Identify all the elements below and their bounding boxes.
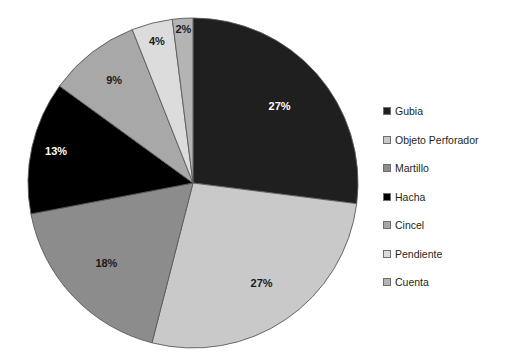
legend-item-cuenta[interactable]: Cuenta (383, 268, 505, 297)
legend-swatch-icon (383, 164, 391, 172)
pie-slice-label-hacha: 13% (45, 145, 67, 157)
legend-item-pendiente[interactable]: Pendiente (383, 240, 505, 269)
legend-swatch-icon (383, 136, 391, 144)
pie-slice-label-martillo: 18% (95, 257, 117, 269)
legend-swatch-icon (383, 107, 391, 115)
legend-item-label: Cincel (395, 220, 424, 231)
legend-item-label: Pendiente (395, 249, 442, 260)
pie-chart-svg: 27%27%18%13%9%4%2% (0, 0, 375, 360)
legend-swatch-icon (383, 250, 391, 258)
legend-item-label: Martillo (395, 163, 429, 174)
legend-item-martillo[interactable]: Martillo (383, 154, 505, 183)
legend-item-label: Hacha (395, 192, 425, 203)
pie-slice-label-cincel: 9% (106, 74, 122, 86)
pie-chart-plot-area: 27%27%18%13%9%4%2% (0, 0, 375, 360)
legend-item-gubia[interactable]: Gubia (383, 97, 505, 126)
legend-item-label: Gubia (395, 106, 423, 117)
pie-chart-figure: 27%27%18%13%9%4%2% GubiaObjeto Perforado… (0, 0, 505, 360)
pie-slices-group (28, 18, 358, 348)
pie-slice-label-cuenta: 2% (175, 23, 191, 35)
pie-slice-label-gubia: 27% (269, 100, 291, 112)
legend-swatch-icon (383, 221, 391, 229)
legend-item-hacha[interactable]: Hacha (383, 183, 505, 212)
legend-item-label: Cuenta (395, 277, 429, 288)
legend-item-label: Objeto Perforador (395, 135, 478, 146)
legend-item-objeto-perforador[interactable]: Objeto Perforador (383, 126, 505, 155)
legend-swatch-icon (383, 278, 391, 286)
pie-slice-label-objeto-perforador: 27% (251, 277, 273, 289)
pie-slice-label-pendiente: 4% (149, 35, 165, 47)
legend-swatch-icon (383, 193, 391, 201)
chart-legend: GubiaObjeto PerforadorMartilloHachaCince… (383, 97, 505, 297)
legend-item-cincel[interactable]: Cincel (383, 211, 505, 240)
